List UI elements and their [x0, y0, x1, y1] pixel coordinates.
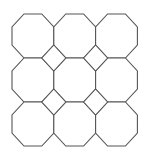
octagon-square-tiling: [0, 0, 152, 154]
octagon-group: [12, 14, 137, 146]
